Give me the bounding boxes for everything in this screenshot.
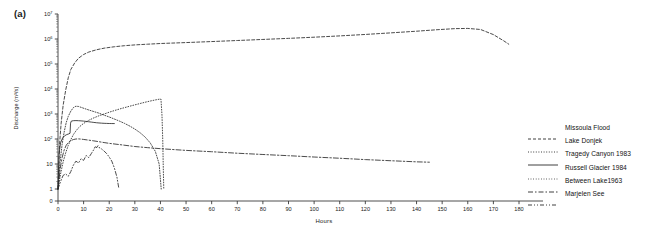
svg-text:106: 106 — [44, 35, 52, 42]
legend-swatch — [528, 167, 558, 168]
svg-text:1: 1 — [49, 186, 52, 192]
svg-text:0: 0 — [49, 198, 52, 204]
legend-label: Tragedy Canyon 1983 — [565, 150, 631, 157]
svg-text:10: 10 — [46, 161, 52, 167]
legend-label: Lake Donjek — [565, 137, 602, 144]
legend-label: Marjelen See — [565, 190, 604, 197]
svg-text:170: 170 — [489, 206, 498, 212]
svg-text:10: 10 — [80, 206, 86, 212]
svg-text:120: 120 — [361, 206, 370, 212]
svg-text:20: 20 — [106, 206, 112, 212]
series-line — [58, 121, 114, 189]
legend-swatch — [528, 127, 558, 128]
legend-item: Missoula Flood — [528, 121, 631, 134]
legend-swatch — [528, 193, 558, 194]
svg-text:180: 180 — [514, 206, 523, 212]
chart-plot-area: 0110102103104105106107010203040506070809… — [0, 0, 648, 236]
svg-text:105: 105 — [44, 60, 52, 67]
svg-text:40: 40 — [157, 206, 163, 212]
svg-text:70: 70 — [234, 206, 240, 212]
series-line — [58, 99, 164, 189]
svg-text:150: 150 — [437, 206, 446, 212]
legend-swatch — [528, 153, 558, 154]
svg-text:130: 130 — [386, 206, 395, 212]
legend-label: Between Lake1963 — [565, 177, 622, 184]
svg-text:160: 160 — [463, 206, 472, 212]
svg-text:103: 103 — [44, 110, 52, 117]
svg-text:140: 140 — [412, 206, 421, 212]
series-line — [58, 28, 509, 189]
svg-text:60: 60 — [209, 206, 215, 212]
figure-panel: (a) Discharge (m³/s) 0110102103104105106… — [0, 0, 648, 236]
svg-text:0: 0 — [56, 206, 59, 212]
legend-swatch — [528, 180, 558, 181]
series-line — [58, 146, 119, 189]
legend-label: Russell Glacier 1984 — [565, 164, 627, 171]
svg-text:107: 107 — [44, 10, 52, 17]
svg-text:100: 100 — [309, 206, 318, 212]
svg-text:110: 110 — [335, 206, 344, 212]
series-line — [58, 139, 429, 189]
chart-legend: Missoula FloodLake DonjekTragedy Canyon … — [528, 121, 631, 200]
svg-text:102: 102 — [44, 135, 52, 142]
svg-text:80: 80 — [260, 206, 266, 212]
svg-text:104: 104 — [44, 85, 53, 92]
svg-text:30: 30 — [132, 206, 138, 212]
legend-swatch — [528, 140, 558, 141]
x-axis-title: Hours — [0, 218, 648, 224]
legend-label: Missoula Flood — [565, 124, 610, 131]
svg-text:90: 90 — [285, 206, 291, 212]
svg-text:50: 50 — [183, 206, 189, 212]
